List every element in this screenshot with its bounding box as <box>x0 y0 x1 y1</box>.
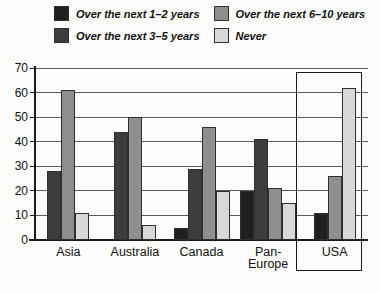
y-tick-60 <box>30 92 35 93</box>
bar-canada-over-the-next-6-10-years <box>202 127 216 240</box>
y-tick-30 <box>30 166 35 167</box>
y-tick-label-20: 20 <box>0 185 28 197</box>
bar-pan-europe-never <box>282 203 296 240</box>
y-tick-20 <box>30 190 35 191</box>
bar-pan-europe-over-the-next-3-5-years <box>254 139 268 240</box>
y-tick-label-30: 30 <box>0 160 28 172</box>
y-tick-40 <box>30 141 35 142</box>
y-tick-label-50: 50 <box>0 111 28 123</box>
x-category-label-asia: Asia <box>32 246 104 258</box>
x-category-label-pan-europe: Pan- Europe <box>232 246 304 270</box>
bar-canada-over-the-next-3-5-years <box>188 169 202 240</box>
y-tick-label-40: 40 <box>0 136 28 148</box>
bar-canada-never <box>216 191 230 240</box>
y-tick-label-70: 70 <box>0 62 28 74</box>
bar-australia-over-the-next-3-5-years <box>114 132 128 240</box>
y-tick-label-0: 0 <box>0 234 28 246</box>
y-tick-70 <box>30 68 35 69</box>
y-tick-label-10: 10 <box>0 209 28 221</box>
bar-pan-europe-over-the-next-6-10-years <box>268 188 282 240</box>
bar-chart-figure: Over the next 1–2 years Over the next 3–… <box>0 0 380 293</box>
x-category-label-canada: Canada <box>166 246 238 258</box>
bar-australia-never <box>142 225 156 240</box>
bar-asia-over-the-next-6-10-years <box>61 90 75 240</box>
bar-asia-never <box>75 213 89 240</box>
y-tick-10 <box>30 215 35 216</box>
bar-pan-europe-over-the-next-1-2-years <box>240 191 254 240</box>
bar-canada-over-the-next-1-2-years <box>174 228 188 240</box>
gridline-y-70 <box>35 68 368 69</box>
y-tick-50 <box>30 117 35 118</box>
usa-highlight-box <box>296 72 362 271</box>
bar-asia-over-the-next-3-5-years <box>47 171 61 240</box>
x-category-label-australia: Australia <box>99 246 171 258</box>
y-tick-label-60: 60 <box>0 87 28 99</box>
bar-australia-over-the-next-6-10-years <box>128 117 142 240</box>
